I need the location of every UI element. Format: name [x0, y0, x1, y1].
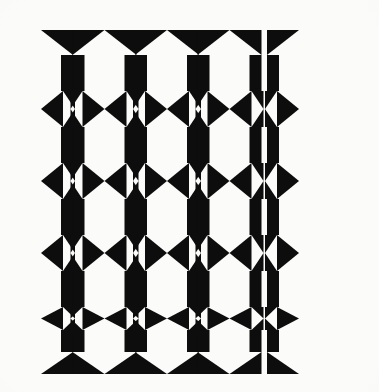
square-band-c2-b7-left-bar [73, 271, 85, 307]
square-band-c3-b1-right-bar [187, 55, 199, 91]
square-band-c3-b9-right-bar [187, 330, 199, 352]
square-band-c4-b7-right-bar [250, 271, 262, 307]
square-band-c4-b5-left-bar [198, 199, 210, 235]
square-band-c4-b5-right-bar [250, 199, 262, 235]
square-band-c4-b9-right-bar [250, 330, 262, 352]
square-band-c3-b7-right-bar [187, 271, 199, 307]
square-band-c2-b3-left-bar [73, 127, 85, 163]
square-band-c3-b5-right-bar [187, 199, 199, 235]
square-band-c4-b3-right-bar [250, 127, 262, 163]
square-band-c3-b3-left-bar [135, 127, 147, 163]
square-band-c5-b3-left-bar [267, 127, 279, 163]
geometric-pattern-artwork: Black and White Geometric Column Pattern… [0, 0, 379, 392]
square-band-c2-b9-left-bar [73, 330, 85, 352]
square-band-c1-b5-right-bar [61, 199, 73, 235]
square-band-c4-b7-left-bar [198, 271, 210, 307]
square-band-c4-b1-left-bar [198, 55, 210, 91]
square-band-c5-b7-left-bar [267, 271, 279, 307]
square-band-c4-b1-right-bar [250, 55, 262, 91]
square-band-c3-b1-left-bar [135, 55, 147, 91]
square-band-c3-b5-left-bar [135, 199, 147, 235]
square-band-c2-b9-right-bar [125, 330, 137, 352]
square-band-c1-b9-right-bar [61, 330, 73, 352]
square-band-c5-b9-left-bar [267, 330, 279, 352]
square-band-c3-b7-left-bar [135, 271, 147, 307]
pattern-canvas: Black and White Geometric Column Pattern… [0, 0, 379, 392]
square-band-c5-b1-left-bar [267, 55, 279, 91]
square-band-c2-b7-right-bar [125, 271, 137, 307]
square-band-c1-b7-right-bar [61, 271, 73, 307]
square-band-c4-b3-left-bar [198, 127, 210, 163]
square-band-c2-b3-right-bar [125, 127, 137, 163]
square-band-c2-b5-right-bar [125, 199, 137, 235]
square-band-c5-b5-left-bar [267, 199, 279, 235]
square-band-c1-b3-right-bar [61, 127, 73, 163]
square-band-c1-b1-right-bar [61, 55, 73, 91]
square-band-c2-b5-left-bar [73, 199, 85, 235]
square-band-c3-b3-right-bar [187, 127, 199, 163]
square-band-c4-b9-left-bar [198, 330, 210, 352]
square-band-c3-b9-left-bar [135, 330, 147, 352]
square-band-c2-b1-left-bar [73, 55, 85, 91]
square-band-c2-b1-right-bar [125, 55, 137, 91]
